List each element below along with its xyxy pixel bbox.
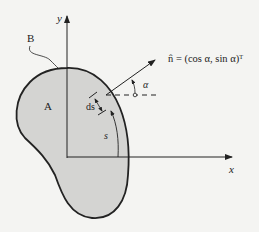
boundary-leader xyxy=(29,46,58,68)
ds-label: ds xyxy=(86,102,95,112)
normal-label: n̂ = (cos α, sin α)ᵀ xyxy=(168,54,243,65)
diagram-svg xyxy=(0,0,259,232)
alpha-anchor xyxy=(133,93,137,97)
alpha-label: α xyxy=(143,80,148,90)
boundary-label: B xyxy=(27,33,34,44)
region-label: A xyxy=(44,101,52,112)
diagram-canvas: y x B A ds s α n̂ = (cos α, sin α)ᵀ xyxy=(0,0,259,232)
alpha-arc xyxy=(132,80,135,93)
s-label: s xyxy=(104,131,108,141)
x-axis-label: x xyxy=(229,164,234,175)
y-axis-label: y xyxy=(57,13,62,24)
